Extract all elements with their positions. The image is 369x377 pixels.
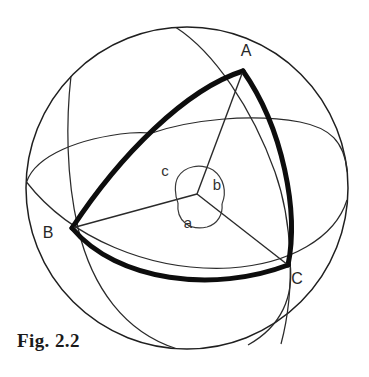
vertex-point-c	[286, 263, 290, 267]
vertex-point-b	[70, 226, 74, 230]
angle-label-a: a	[184, 214, 193, 231]
angle-label-b: b	[213, 176, 221, 193]
figure-caption: Fig. 2.2	[17, 330, 80, 352]
vertex-label-a: A	[241, 42, 252, 59]
spherical-triangle-diagram: A B C a b c	[0, 0, 369, 377]
angle-label-c: c	[161, 162, 169, 179]
diagram-background	[0, 0, 369, 377]
figure-container: A B C a b c Fig. 2.2	[0, 0, 369, 377]
vertex-point-a	[241, 69, 245, 73]
vertex-label-c: C	[291, 270, 303, 287]
vertex-label-b: B	[43, 224, 54, 241]
